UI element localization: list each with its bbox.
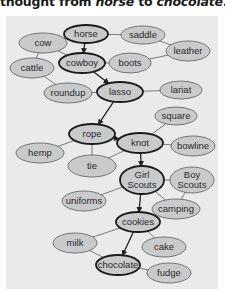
node-label: lasso: [109, 86, 131, 97]
node-label: hemp: [28, 147, 52, 158]
arrow-lasso-to-rope: [98, 102, 113, 125]
node-label: boots: [118, 57, 141, 68]
node-label: knot: [131, 137, 149, 148]
node-cattle: cattle: [10, 58, 54, 78]
node-label: milk: [67, 237, 84, 248]
node-hemp: hemp: [16, 143, 64, 163]
association-network-diagram: horsesaddlecowleathercattlecowboybootsro…: [0, 0, 225, 294]
node-label: uniforms: [66, 195, 103, 206]
arrow-cookies-to-chocolate: [123, 232, 134, 255]
node-lasso: lasso: [97, 82, 143, 102]
node-cake: cake: [142, 237, 186, 257]
node-label: cow: [35, 37, 52, 48]
node-cow: cow: [19, 33, 67, 53]
node-lariat: lariat: [160, 81, 202, 99]
arrow-cowboy-to-lasso: [93, 72, 108, 84]
node-milk: milk: [53, 233, 97, 253]
node-cookies: cookies: [116, 212, 160, 232]
node-camping: camping: [152, 199, 200, 219]
node-uniforms: uniforms: [62, 191, 106, 211]
node-label: cake: [154, 241, 174, 252]
node-label: cattle: [21, 62, 44, 73]
node-girl-scouts: GirlScouts: [120, 166, 164, 194]
nodes-layer: horsesaddlecowleathercattlecowboybootsro…: [10, 25, 215, 283]
node-label: roundup: [51, 87, 86, 98]
node-square: square: [155, 107, 197, 125]
arrow-knot-to-girl-scouts: [141, 153, 142, 166]
node-fudge: fudge: [147, 263, 191, 283]
node-roundup: roundup: [44, 83, 92, 103]
node-label: Scouts: [177, 179, 206, 190]
node-label: bowline: [177, 140, 209, 151]
node-label: Scouts: [127, 179, 156, 190]
node-saddle: saddle: [121, 26, 165, 44]
node-boots: boots: [109, 53, 151, 73]
node-tie: tie: [68, 155, 116, 177]
node-label: cowboy: [66, 57, 98, 68]
node-label: lariat: [171, 84, 192, 95]
node-bowline: bowline: [171, 136, 215, 156]
node-cowboy: cowboy: [59, 53, 105, 73]
node-leather: leather: [166, 41, 210, 61]
node-label: leather: [173, 45, 202, 56]
arrow-girl-scouts-to-cookies: [139, 194, 141, 212]
node-label: cookies: [122, 216, 154, 227]
node-horse: horse: [64, 25, 108, 43]
node-label: horse: [74, 28, 98, 39]
node-rope: rope: [69, 124, 115, 144]
node-label: square: [161, 110, 190, 121]
node-label: chocolate: [98, 259, 139, 270]
node-knot: knot: [117, 133, 163, 153]
node-label: fudge: [157, 267, 181, 278]
node-label: rope: [82, 128, 101, 139]
node-chocolate: chocolate: [96, 255, 140, 275]
node-label: tie: [87, 160, 97, 171]
node-label: camping: [158, 203, 194, 214]
node-boy-scouts: BoyScouts: [170, 167, 214, 193]
arrow-horse-to-cowboy: [83, 43, 84, 53]
node-label: saddle: [129, 29, 157, 40]
